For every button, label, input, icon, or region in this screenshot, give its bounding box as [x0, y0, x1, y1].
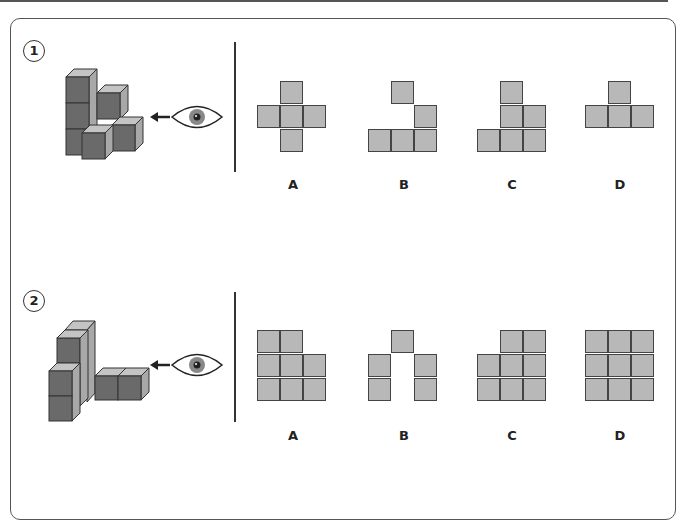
grid-cell [608, 330, 631, 353]
grid-cell [500, 105, 523, 128]
option-label-2-D: D [605, 428, 635, 443]
grid-cell [631, 330, 654, 353]
grid-cell [280, 81, 303, 104]
arrow-left-icon [150, 112, 170, 122]
grid-cell [631, 378, 654, 401]
grid-cell [303, 105, 326, 128]
grid-cell [391, 81, 414, 104]
option-label-1-C: C [497, 177, 527, 192]
grid-cell [523, 378, 546, 401]
grid-cell [523, 105, 546, 128]
grid-cell [257, 378, 280, 401]
grid-cell [280, 105, 303, 128]
grid-cell [257, 354, 280, 377]
grid-cell [414, 354, 437, 377]
grid-cell [280, 378, 303, 401]
grid-cell [631, 105, 654, 128]
arrow-left-icon [150, 360, 170, 370]
grid-cell [608, 378, 631, 401]
problem-number-2: 2 [23, 290, 45, 312]
grid-cell [391, 330, 414, 353]
grid-cell [608, 81, 631, 104]
grid-cell [280, 354, 303, 377]
grid-cell [608, 354, 631, 377]
grid-cell [523, 129, 546, 152]
grid-cell [280, 129, 303, 152]
grid-cell [477, 354, 500, 377]
option-label-2-B: B [389, 428, 419, 443]
grid-cell [477, 378, 500, 401]
grid-cell [303, 354, 326, 377]
option-label-2-A: A [278, 428, 308, 443]
grid-cell [500, 378, 523, 401]
top-rule [0, 0, 668, 2]
grid-cell [631, 354, 654, 377]
grid-cell [414, 105, 437, 128]
grid-cell [414, 129, 437, 152]
grid-cell [585, 330, 608, 353]
eye-icon [170, 102, 224, 132]
grid-cell [280, 330, 303, 353]
grid-cell [500, 129, 523, 152]
grid-cell [368, 129, 391, 152]
grid-cell [585, 105, 608, 128]
grid-cell [500, 330, 523, 353]
grid-cell [368, 378, 391, 401]
grid-cell [391, 129, 414, 152]
eye-icon [170, 350, 224, 380]
option-label-1-A: A [278, 177, 308, 192]
cube-structure-2 [45, 318, 155, 433]
grid-cell [368, 354, 391, 377]
grid-cell [257, 105, 280, 128]
grid-cell [500, 354, 523, 377]
grid-cell [585, 354, 608, 377]
grid-cell [523, 354, 546, 377]
option-label-1-D: D [605, 177, 635, 192]
grid-cell [500, 81, 523, 104]
grid-cell [608, 105, 631, 128]
grid-cell [477, 129, 500, 152]
option-label-1-B: B [389, 177, 419, 192]
grid-cell [414, 378, 437, 401]
grid-cell [303, 378, 326, 401]
divider-2 [234, 292, 236, 422]
grid-cell [257, 330, 280, 353]
grid-cell [523, 330, 546, 353]
option-label-2-C: C [497, 428, 527, 443]
divider-1 [234, 42, 236, 172]
cube-structure-1 [55, 65, 165, 175]
grid-cell [585, 378, 608, 401]
problem-number-1: 1 [23, 40, 45, 62]
